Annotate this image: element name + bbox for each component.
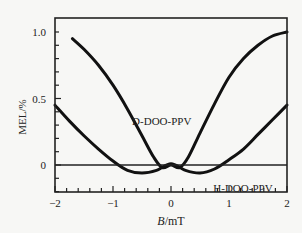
svg-text:1: 1	[226, 197, 232, 209]
svg-text:0: 0	[41, 159, 47, 171]
svg-text:1.0: 1.0	[32, 26, 46, 38]
d-doo-ppv-curve	[72, 32, 287, 168]
h-doo-ppv-label: H-DOO-PPV	[213, 182, 272, 194]
x-axis-label: B/mT	[157, 214, 185, 228]
svg-text:0.5: 0.5	[32, 93, 46, 105]
series-layer	[55, 32, 287, 173]
svg-text:−2: −2	[49, 197, 61, 209]
svg-text:2: 2	[284, 197, 290, 209]
svg-text:−1: −1	[107, 197, 119, 209]
y-axis-label: MEL/%	[16, 99, 28, 134]
mel-chart: −2−101200.51.0 D-DOO-PPV H-DOO-PPV B/mT …	[0, 0, 302, 233]
svg-text:0: 0	[168, 197, 174, 209]
d-doo-ppv-label: D-DOO-PPV	[132, 115, 191, 127]
